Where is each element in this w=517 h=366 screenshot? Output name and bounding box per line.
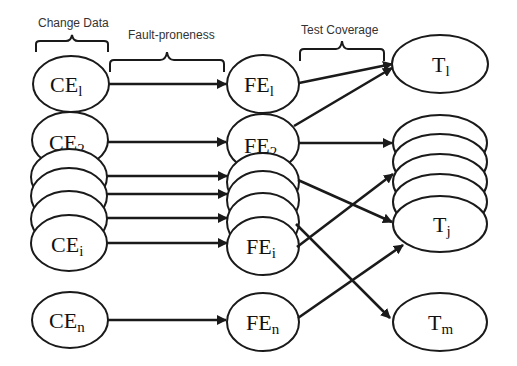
test-coverage-label: Test Coverage bbox=[301, 23, 379, 37]
ce-n-node: CEn bbox=[32, 292, 108, 348]
change-data-label: Change Data bbox=[38, 16, 109, 30]
test-coverage-brace bbox=[300, 41, 384, 61]
edge-fe2-t1 bbox=[294, 68, 392, 126]
edge-fe1-t1 bbox=[299, 64, 392, 83]
ce-1-node: CEl bbox=[33, 56, 109, 112]
svg-text:FEl: FEl bbox=[244, 72, 274, 99]
edge-fen-tj bbox=[298, 245, 403, 318]
fe-n-node: FEn bbox=[227, 293, 299, 351]
fe-i-node: FEi bbox=[227, 217, 299, 275]
fault-prediction-diagram: Change Data Fault-proneness Test Coverag… bbox=[0, 0, 517, 366]
change-data-brace bbox=[36, 35, 108, 52]
fault-proneness-brace bbox=[110, 52, 224, 72]
fault-proneness-label: Fault-proneness bbox=[128, 28, 215, 42]
svg-text:FEi: FEi bbox=[246, 234, 276, 261]
svg-text:CEi: CEi bbox=[51, 232, 83, 259]
svg-text:CEl: CEl bbox=[50, 72, 82, 99]
t-j-node: Tj bbox=[393, 196, 487, 252]
fe-1-node: FEl bbox=[227, 55, 299, 113]
t-1-node: Tl bbox=[392, 35, 488, 93]
t-m-node: Tm bbox=[393, 293, 487, 351]
ce-i-node: CEi bbox=[31, 215, 107, 271]
